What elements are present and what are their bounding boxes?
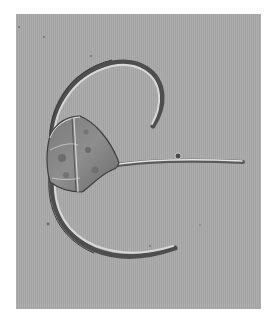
dinoflagellate-specimen bbox=[0, 0, 276, 324]
cell-body bbox=[47, 116, 119, 192]
debris-particles bbox=[18, 26, 201, 247]
apical-horn bbox=[110, 160, 243, 166]
